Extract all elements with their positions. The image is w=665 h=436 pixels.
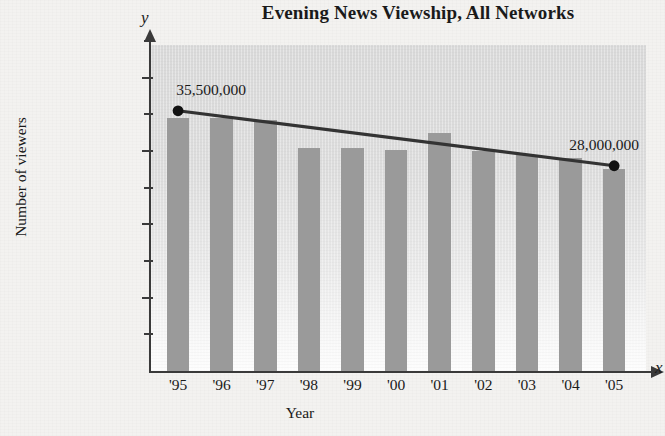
data-label-05: 28,000,000 [569,136,639,154]
trend-point-marker-05 [609,160,620,171]
data-label-95: 35,500,000 [176,81,246,99]
chart-root: Evening News Viewship, All Networks y x … [0,0,665,436]
trend-point-marker-95 [173,105,184,116]
trend-line-layer [0,0,665,436]
trend-line [178,111,614,166]
